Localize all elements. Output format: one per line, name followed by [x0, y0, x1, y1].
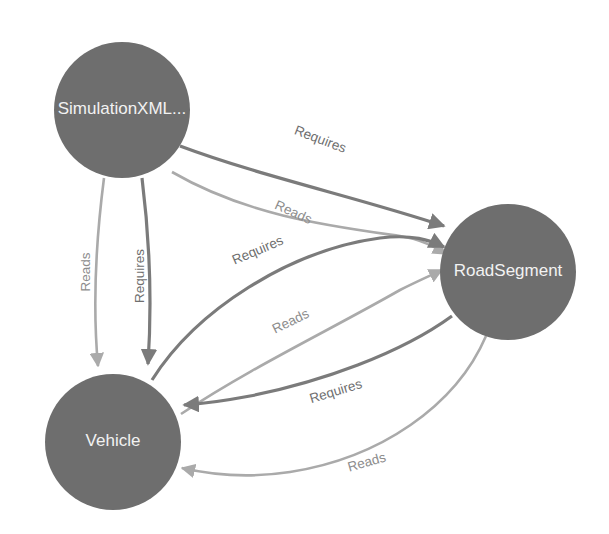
edge-road-vehicle-reads[interactable] [182, 336, 486, 475]
edge-label-vehicle-road-requires: Requires [230, 233, 286, 268]
edge-label-sim-vehicle-requires: Requires [132, 249, 147, 303]
nodes-layer: SimulationXML...RoadSegmentVehicle [45, 42, 576, 510]
node-label-roadsegment: RoadSegment [454, 261, 563, 280]
node-label-vehicle: Vehicle [86, 431, 141, 450]
graph-svg: SimulationXML...RoadSegmentVehicle Requi… [0, 0, 609, 534]
edge-label-sim-road-reads: Reads [273, 197, 315, 227]
edge-label-road-vehicle-reads: Reads [346, 449, 388, 474]
edge-sim-vehicle-reads[interactable] [95, 178, 104, 366]
node-label-simulationxml: SimulationXML... [58, 99, 187, 118]
edge-label-vehicle-road-reads: Reads [270, 306, 312, 337]
graph-canvas: SimulationXML...RoadSegmentVehicle Requi… [0, 0, 609, 534]
node-roadsegment[interactable]: RoadSegment [440, 204, 576, 340]
node-vehicle[interactable]: Vehicle [45, 374, 181, 510]
node-simulationxml[interactable]: SimulationXML... [54, 42, 190, 178]
edge-label-sim-road-requires: Requires [292, 122, 348, 155]
edge-label-sim-vehicle-reads: Reads [78, 252, 93, 291]
